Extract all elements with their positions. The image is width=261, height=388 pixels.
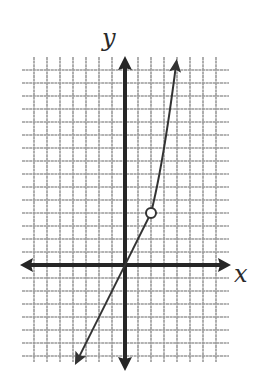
open-circle-marker [146,208,156,218]
x-axis-label: x [234,260,248,288]
graph-plot: x y [0,0,261,388]
y-axis-label: y [101,24,116,52]
y-axis-down-arrow-icon [118,357,132,371]
y-axis-up-arrow-icon [118,56,132,70]
function-curves [75,59,181,365]
